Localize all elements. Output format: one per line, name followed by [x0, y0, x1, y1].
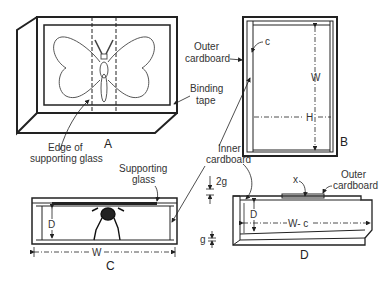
label-cardboard: cardboard: [185, 53, 230, 64]
panel-d: Outer cardboard x D W- c 2g g D: [200, 169, 378, 262]
dim-d-c: D: [48, 219, 55, 230]
label-cardboard-d: cardboard: [333, 180, 378, 191]
label-binding: Binding: [190, 83, 223, 94]
panel-b: W H c B: [230, 17, 348, 156]
panel-label-d: D: [300, 248, 309, 262]
panel-c: Supporting glass D W C: [32, 163, 177, 273]
dim-x: x: [293, 174, 298, 185]
dim-g: g: [200, 234, 206, 245]
label-supporting-glass: supporting glass: [30, 153, 103, 164]
panel-label-c: C: [106, 259, 115, 273]
framing-diagram: A Edge of supporting glass Outer cardboa…: [0, 0, 388, 282]
butterfly-icon: [54, 37, 155, 102]
label-outer-d: Outer: [341, 169, 367, 180]
label-inner-cardboard: cardboard: [206, 154, 251, 165]
dim-2g: 2g: [216, 176, 227, 187]
dim-w-minus-c: W- c: [288, 218, 308, 229]
label-tape: tape: [196, 95, 216, 106]
dim-d-d: D: [250, 209, 257, 220]
panel-a: A Edge of supporting glass: [17, 17, 190, 164]
dim-w-b: W: [311, 72, 321, 83]
label-inner: Inner: [218, 143, 241, 154]
dim-h: H: [306, 112, 313, 123]
label-glass: glass: [132, 174, 155, 185]
dim-c: c: [265, 36, 270, 47]
label-outer: Outer: [194, 41, 220, 52]
panel-label-a: A: [104, 137, 112, 151]
label-supporting: Supporting: [119, 163, 167, 174]
insect-icon: [92, 208, 124, 240]
panel-label-b: B: [340, 135, 348, 149]
label-edge-of-glass: Edge of: [48, 142, 83, 153]
dim-w-c: W: [92, 247, 102, 258]
